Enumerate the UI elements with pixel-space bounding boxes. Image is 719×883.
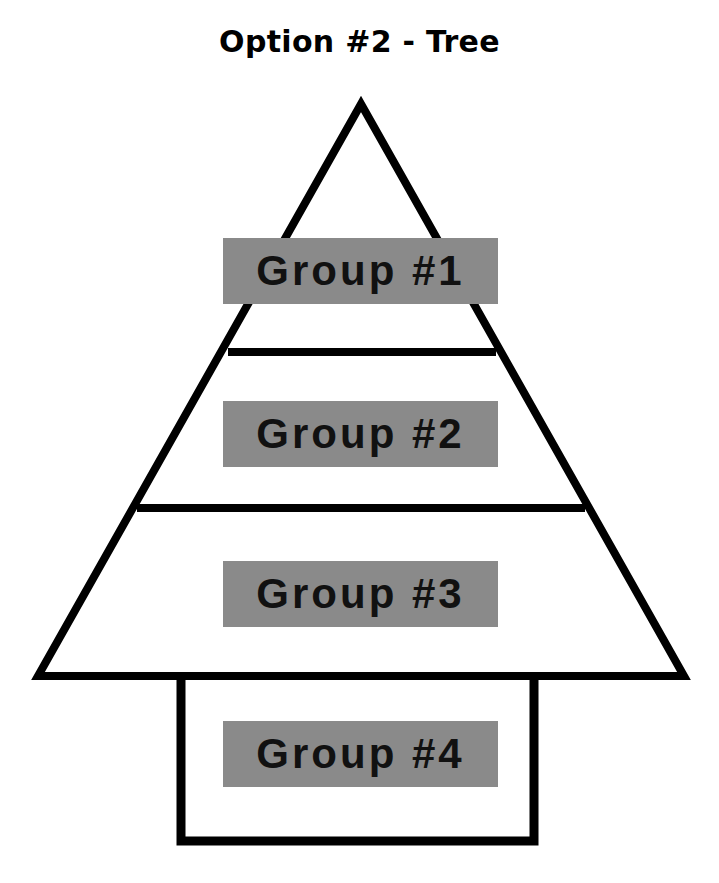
group-label-1: Group #1 [223,238,498,304]
group-label-2: Group #2 [223,401,498,467]
group-label-3: Group #3 [223,561,498,627]
group-label-4: Group #4 [223,721,498,787]
